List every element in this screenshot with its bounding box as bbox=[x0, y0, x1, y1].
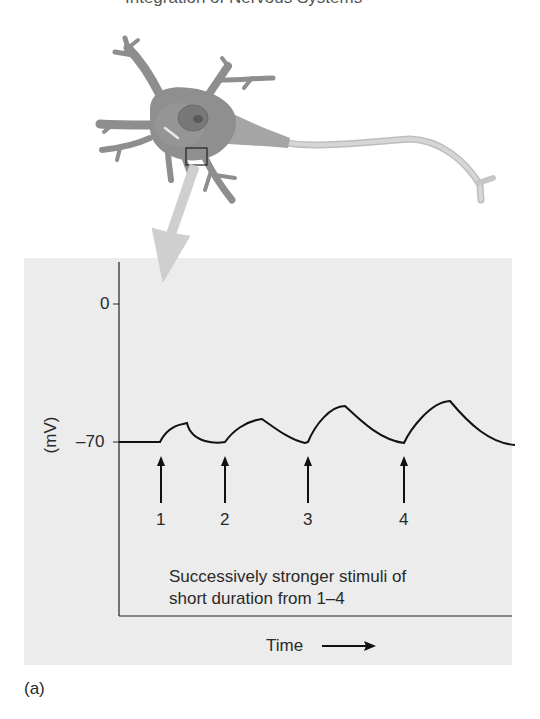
stimulus-label-3: 3 bbox=[303, 510, 312, 530]
stimulus-label-2: 2 bbox=[220, 510, 229, 530]
caption-line-2: short duration from 1–4 bbox=[169, 588, 406, 610]
stimulus-caption: Successively stronger stimuli of short d… bbox=[169, 566, 406, 610]
panel-label: (a) bbox=[24, 679, 45, 699]
y-tick-label-0: 0 bbox=[100, 294, 109, 314]
x-axis-label: Time bbox=[266, 636, 303, 656]
nucleolus bbox=[193, 115, 203, 123]
neuron-illustration bbox=[100, 38, 493, 200]
y-tick-label-minus70: –70 bbox=[76, 432, 104, 452]
y-axis-label: (mV) bbox=[41, 417, 61, 454]
caption-line-1: Successively stronger stimuli of bbox=[169, 566, 406, 588]
stimulus-label-4: 4 bbox=[399, 510, 408, 530]
axon-terminal bbox=[478, 178, 493, 183]
nucleus bbox=[178, 105, 208, 131]
stimulus-label-1: 1 bbox=[156, 510, 165, 530]
figure-canvas bbox=[0, 0, 540, 719]
